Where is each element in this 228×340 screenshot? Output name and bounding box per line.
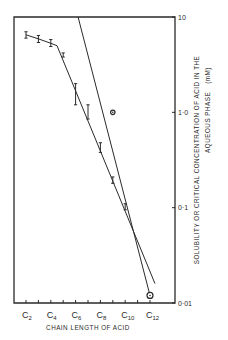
- solubility-fit-line: [26, 35, 57, 46]
- y-axis-title: SOLUBILITY OR CRITICAL CONCENTRATION OF …: [193, 56, 200, 265]
- y-axis-title-2: AQUEOUS PHASE(mM): [204, 67, 212, 153]
- x-tick-label-subscript: 6: [78, 315, 82, 321]
- y-tick-label: 10: [178, 14, 186, 21]
- x-tick-label-subscript: 12: [153, 315, 160, 321]
- x-tick-label: C10: [121, 310, 135, 321]
- x-tick-label-subscript: 4: [53, 315, 57, 321]
- y-tick-label: 0·01: [178, 300, 192, 307]
- solubility-fit-line: [57, 46, 155, 284]
- plot-border: [14, 17, 175, 303]
- x-tick-label: C8: [96, 310, 107, 321]
- x-tick-label: C4: [47, 310, 58, 321]
- y-axis-title-phase: AQUEOUS PHASE: [204, 92, 212, 153]
- x-tick-label-subscript: 8: [103, 315, 107, 321]
- data-markers: [24, 32, 153, 299]
- x-tick-label: C12: [146, 310, 160, 321]
- x-tick-label-subscript: 2: [29, 315, 33, 321]
- circle-marker-dot: [149, 295, 151, 297]
- critical-concentration-fit-line: [78, 17, 150, 295]
- x-tick-label: C6: [72, 310, 83, 321]
- chart: C2C4C6C8C10C12 101·00·10·01 CHAIN LENGTH…: [0, 0, 228, 340]
- x-tick-label-subscript: 10: [128, 315, 135, 321]
- y-axis-unit: (mM): [204, 67, 212, 84]
- circle-marker-dot: [112, 112, 114, 114]
- y-axis-title-line1: SOLUBILITY OR CRITICAL CONCENTRATION OF …: [193, 56, 200, 265]
- plot-frame: [14, 17, 175, 303]
- fit-lines: [26, 17, 155, 295]
- x-tick-label: C2: [22, 310, 33, 321]
- y-axis-title-line2: AQUEOUS PHASE(mM): [204, 67, 212, 153]
- x-axis-title: CHAIN LENGTH OF ACID: [46, 324, 130, 331]
- y-tick-label: 1·0: [178, 109, 188, 116]
- y-tick-label: 0·1: [178, 204, 188, 211]
